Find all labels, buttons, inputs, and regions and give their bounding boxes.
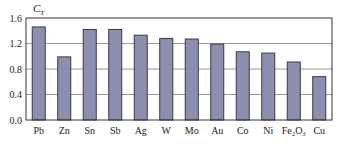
x-tick-label: Ni bbox=[263, 125, 273, 136]
x-tick-label: Au bbox=[211, 125, 223, 136]
y-axis-label: CT bbox=[33, 2, 45, 17]
x-tick-label: Ag bbox=[135, 125, 147, 136]
bar-chart: 0.00.40.81.21.6 PbZnSnSbAgWMoAuCoNiFe₂O₃… bbox=[0, 0, 340, 144]
x-axis-labels: PbZnSnSbAgWMoAuCoNiFe₂O₃Cu bbox=[33, 125, 325, 136]
bar-mo bbox=[185, 39, 198, 120]
y-tick-label: 0.8 bbox=[10, 64, 23, 75]
x-tick-label: Pb bbox=[33, 125, 44, 136]
bar-sn bbox=[83, 29, 96, 120]
x-tick-label: Cu bbox=[313, 125, 325, 136]
y-tick-label: 0.4 bbox=[10, 89, 23, 100]
x-tick-label: Sn bbox=[84, 125, 95, 136]
bar-fe2o3 bbox=[287, 62, 300, 120]
bar-sb bbox=[109, 29, 122, 120]
bar-cu bbox=[313, 77, 326, 120]
x-tick-label: Zn bbox=[59, 125, 70, 136]
bar-ag bbox=[134, 35, 147, 120]
bar-w bbox=[160, 38, 173, 120]
x-tick-label: Sb bbox=[110, 125, 121, 136]
x-tick-label: W bbox=[162, 125, 172, 136]
bars bbox=[32, 27, 326, 120]
bar-co bbox=[236, 52, 249, 120]
y-tick-label: 1.2 bbox=[10, 38, 23, 49]
x-tick-label: Co bbox=[237, 125, 249, 136]
bar-zn bbox=[58, 57, 71, 120]
x-tick-label: Mo bbox=[185, 125, 199, 136]
y-tick-label: 1.6 bbox=[10, 13, 23, 24]
gridlines bbox=[26, 44, 332, 95]
bar-au bbox=[211, 44, 224, 120]
y-tick-label: 0.0 bbox=[10, 115, 23, 126]
bar-pb bbox=[32, 27, 45, 120]
bar-ni bbox=[262, 53, 275, 120]
y-axis-ticks: 0.00.40.81.21.6 bbox=[10, 13, 23, 126]
x-tick-label: Fe₂O₃ bbox=[282, 125, 306, 136]
